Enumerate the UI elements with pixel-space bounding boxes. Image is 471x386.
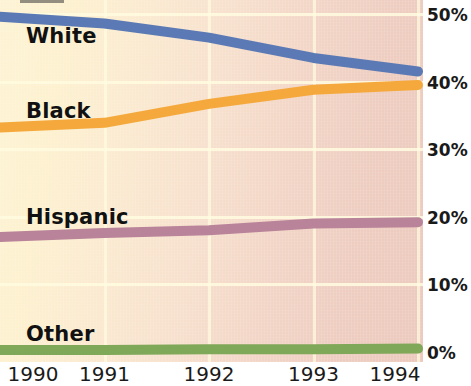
y-axis-tick-label: 40% xyxy=(427,73,468,93)
x-axis-tick-label: 1990 xyxy=(8,362,59,386)
y-axis-tick-label: 50% xyxy=(427,5,468,25)
y-axis-tick-label: 10% xyxy=(427,275,468,295)
series-line-other xyxy=(0,349,418,350)
series-label-hispanic: Hispanic xyxy=(26,205,129,229)
y-axis-tick-label: 0% xyxy=(427,343,456,363)
x-axis-tick-label: 1992 xyxy=(184,362,235,386)
y-axis-tick-label: 30% xyxy=(427,140,468,160)
plot-area: White Black Hispanic Other xyxy=(0,0,423,362)
series-label-other: Other xyxy=(26,322,94,346)
line-chart: White Black Hispanic Other 50%40%30%20%1… xyxy=(0,0,471,386)
cropped-title-sliver xyxy=(20,0,64,3)
y-axis-tick-label: 20% xyxy=(427,208,468,228)
x-axis-tick-label: 1991 xyxy=(79,362,130,386)
series-label-black: Black xyxy=(26,99,91,123)
series-label-white: White xyxy=(26,24,97,48)
series-lines xyxy=(0,0,423,362)
x-axis: 19901991199219931994 xyxy=(0,360,423,386)
x-axis-tick-label: 1993 xyxy=(288,362,339,386)
y-axis: 50%40%30%20%10%0% xyxy=(427,0,471,362)
x-axis-tick-label: 1994 xyxy=(370,362,421,386)
